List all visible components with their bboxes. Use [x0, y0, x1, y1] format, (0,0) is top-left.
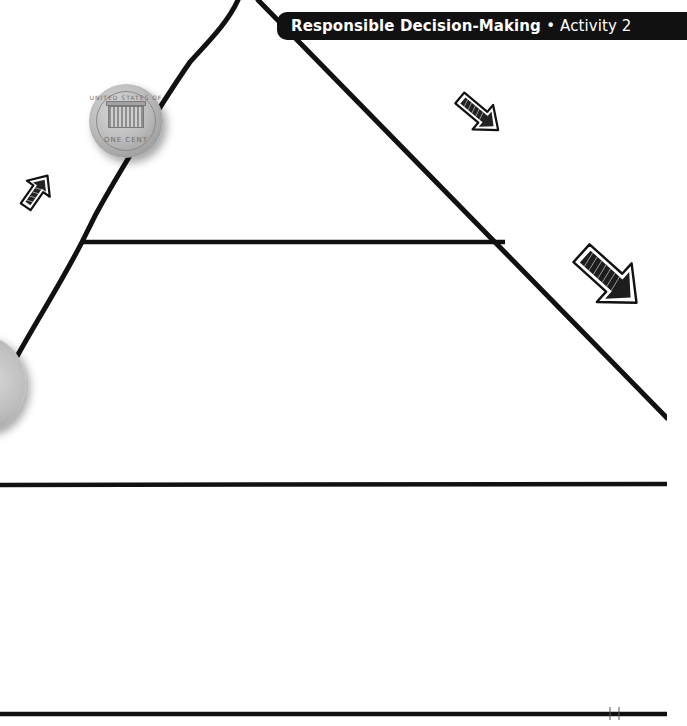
writing-area [0, 488, 667, 712]
arrow-up-right-icon [12, 166, 60, 218]
pyramid-right-edge [258, 0, 667, 418]
section-title: Responsible Decision-Making [291, 17, 541, 35]
activity-label: Activity 2 [560, 17, 631, 35]
coin-bottom-text: ONE CENT [89, 136, 163, 144]
arrow-down-right-small-icon [450, 88, 508, 140]
memorial-building-icon [108, 106, 144, 128]
penny-coin-image: UNITED STATES OF AMERICA ONE CENT [89, 84, 163, 158]
arrow-down-right-large-icon [568, 238, 650, 318]
section-header-banner: Responsible Decision-Making • Activity 2 [277, 12, 687, 40]
bullet-separator: • [546, 17, 560, 35]
pyramid-base [0, 484, 667, 485]
